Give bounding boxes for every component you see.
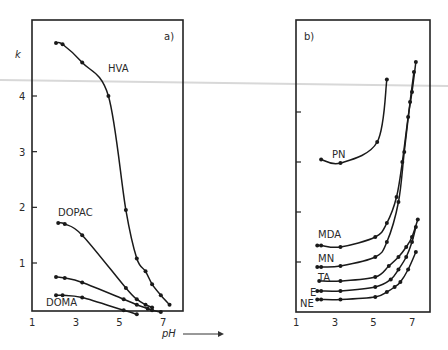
panel-b-label: b)	[304, 31, 314, 42]
data-point	[396, 255, 400, 259]
panel-a-label: a)	[164, 31, 174, 42]
data-point	[80, 61, 84, 65]
data-point	[414, 250, 418, 254]
data-point	[387, 264, 391, 268]
y-tick-label: 4	[19, 91, 25, 102]
data-point	[404, 245, 408, 249]
data-point	[416, 218, 420, 222]
data-point	[54, 275, 58, 279]
data-point	[338, 264, 342, 268]
data-point	[373, 235, 377, 239]
data-point	[373, 275, 377, 279]
series-label-hva: HVA	[108, 63, 129, 74]
data-point	[315, 244, 319, 248]
series-label-doma: DOMA	[46, 297, 77, 308]
data-point	[63, 276, 67, 280]
data-point	[135, 297, 139, 301]
panel-b-series	[315, 60, 420, 302]
arrow-head-icon	[218, 331, 224, 337]
series-label-e: E	[310, 287, 316, 298]
y-tick-label: 1	[19, 258, 25, 269]
data-point	[319, 158, 323, 162]
data-point	[80, 296, 84, 300]
data-point	[106, 94, 110, 98]
data-point	[385, 240, 389, 244]
panel-a-ticks: 12341357	[19, 91, 166, 328]
data-point	[54, 41, 58, 45]
data-point	[385, 221, 389, 225]
data-point	[135, 312, 139, 316]
x-tick-label: 3	[332, 317, 338, 328]
series-label-pn: PN	[332, 149, 346, 160]
x-tick-label: 3	[73, 317, 79, 328]
y-tick-label: 3	[19, 147, 25, 158]
x-axis-label: pH	[161, 328, 176, 339]
series-label-ta: TA	[317, 272, 330, 283]
data-point	[389, 278, 393, 282]
data-point	[80, 233, 84, 237]
data-point	[80, 280, 84, 284]
data-point	[124, 208, 128, 212]
data-point	[315, 298, 319, 302]
figure: a) k b) pH 12341357 1357 HVADOPACDOMAPNM…	[0, 0, 448, 350]
data-point	[150, 282, 154, 286]
data-point	[338, 298, 342, 302]
data-point	[393, 285, 397, 289]
data-point	[319, 289, 323, 293]
curve-dopac	[58, 223, 152, 308]
data-point	[338, 161, 342, 165]
y-axis-label: k	[15, 49, 22, 60]
data-point	[338, 279, 342, 283]
series-label-ne: NE	[300, 298, 314, 309]
series-labels: HVADOPACDOMAPNMDAMNTAENE	[46, 63, 346, 309]
data-point	[56, 221, 60, 225]
data-point	[122, 297, 126, 301]
data-point	[338, 289, 342, 293]
data-point	[404, 255, 408, 259]
x-tick-label: 5	[370, 317, 376, 328]
data-point	[159, 310, 163, 314]
data-point	[159, 293, 163, 297]
y-tick-label: 2	[19, 202, 25, 213]
data-point	[402, 150, 406, 154]
data-point	[144, 269, 148, 273]
data-point	[61, 42, 65, 46]
data-point	[398, 280, 402, 284]
data-point	[373, 255, 377, 259]
data-point	[410, 240, 414, 244]
series-label-mda: MDA	[318, 229, 341, 240]
series-label-dopac: DOPAC	[58, 207, 93, 218]
data-point	[315, 265, 319, 269]
data-point	[150, 308, 154, 312]
x-tick-label: 7	[160, 317, 166, 328]
data-point	[396, 268, 400, 272]
data-point	[395, 195, 399, 199]
data-point	[396, 200, 400, 204]
data-point	[135, 257, 139, 261]
x-tick-label: 7	[409, 317, 415, 328]
data-point	[373, 295, 377, 299]
data-point	[373, 285, 377, 289]
data-point	[122, 308, 126, 312]
data-point	[385, 78, 389, 82]
data-point	[135, 303, 139, 307]
data-point	[412, 70, 416, 74]
data-point	[375, 140, 379, 144]
data-point	[124, 286, 128, 290]
data-point	[63, 222, 67, 226]
data-point	[319, 244, 323, 248]
data-point	[319, 298, 323, 302]
data-point	[385, 290, 389, 294]
data-point	[406, 268, 410, 272]
data-point	[319, 265, 323, 269]
data-point	[338, 245, 342, 249]
x-tick-label: 1	[29, 317, 35, 328]
data-point	[146, 307, 150, 311]
data-point	[414, 60, 418, 64]
data-point	[168, 303, 172, 307]
x-tick-label: 5	[116, 317, 122, 328]
data-point	[144, 303, 148, 307]
scan-artifact-line	[0, 80, 448, 86]
data-point	[408, 100, 412, 104]
series-label-mn: MN	[318, 253, 334, 264]
